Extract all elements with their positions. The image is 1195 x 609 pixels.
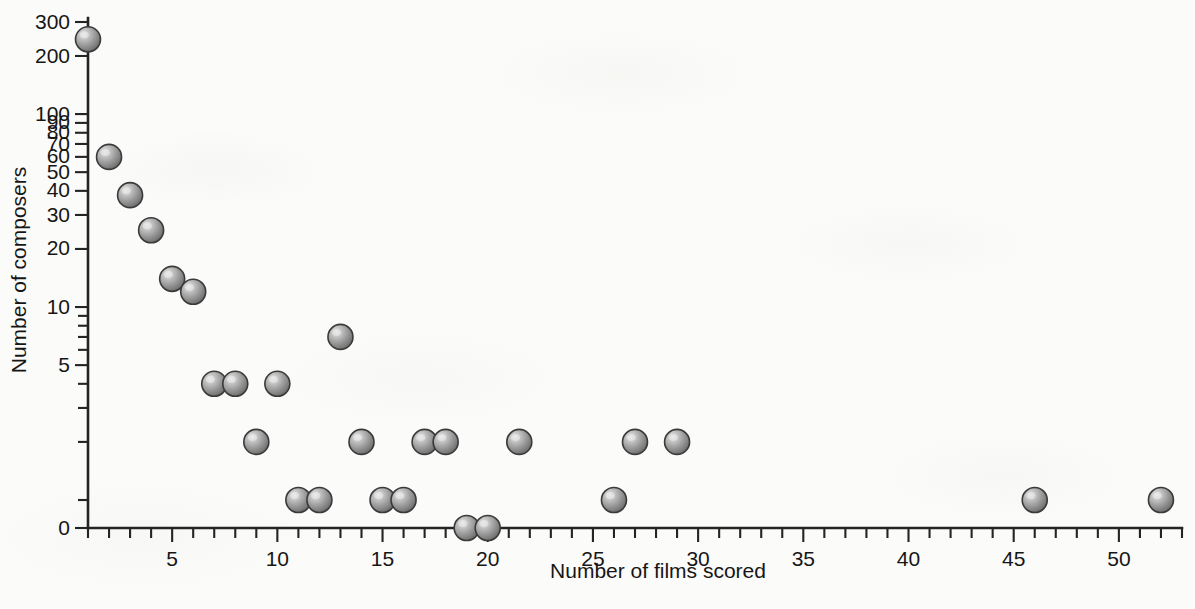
data-point bbox=[139, 218, 164, 243]
data-point bbox=[433, 429, 458, 454]
y-tick-label: 0 bbox=[58, 516, 70, 539]
y-tick-label: 30 bbox=[47, 203, 70, 226]
y-tick-label: 300 bbox=[35, 10, 70, 33]
x-tick-label: 20 bbox=[476, 547, 499, 570]
x-tick-label: 45 bbox=[1002, 547, 1025, 570]
y-axis-title: Number of composers bbox=[7, 167, 30, 374]
chart-canvas: 05102030405060708090100200300 5101520253… bbox=[0, 0, 1195, 609]
x-tick-label: 10 bbox=[266, 547, 289, 570]
data-point bbox=[601, 488, 626, 513]
x-tick-label: 35 bbox=[792, 547, 815, 570]
y-tick-label: 100 bbox=[35, 102, 70, 125]
data-point bbox=[118, 183, 143, 208]
data-point bbox=[307, 488, 332, 513]
y-tick-label: 200 bbox=[35, 44, 70, 67]
scatter-plot-figure: 05102030405060708090100200300 5101520253… bbox=[0, 0, 1195, 609]
data-point bbox=[265, 371, 290, 396]
data-point bbox=[1022, 488, 1047, 513]
data-point bbox=[223, 371, 248, 396]
data-point bbox=[391, 488, 416, 513]
data-point bbox=[1148, 488, 1173, 513]
x-tick-label: 50 bbox=[1107, 547, 1130, 570]
x-tick-label: 40 bbox=[897, 547, 920, 570]
data-point bbox=[181, 279, 206, 304]
y-tick-label: 10 bbox=[47, 295, 70, 318]
y-tick-label: 20 bbox=[47, 236, 70, 259]
y-tick-label: 5 bbox=[58, 353, 70, 376]
data-point bbox=[475, 516, 500, 541]
x-tick-label: 15 bbox=[371, 547, 394, 570]
x-axis-title: Number of films scored bbox=[550, 559, 766, 582]
data-point bbox=[328, 324, 353, 349]
data-point bbox=[623, 429, 648, 454]
data-point bbox=[507, 429, 532, 454]
data-point bbox=[97, 144, 122, 169]
data-point-markers bbox=[76, 27, 1174, 541]
data-point bbox=[349, 429, 374, 454]
y-axis: 05102030405060708090100200300 bbox=[35, 10, 88, 539]
x-tick-label: 5 bbox=[166, 547, 178, 570]
data-point bbox=[244, 429, 269, 454]
data-point bbox=[665, 429, 690, 454]
data-point bbox=[76, 27, 101, 52]
